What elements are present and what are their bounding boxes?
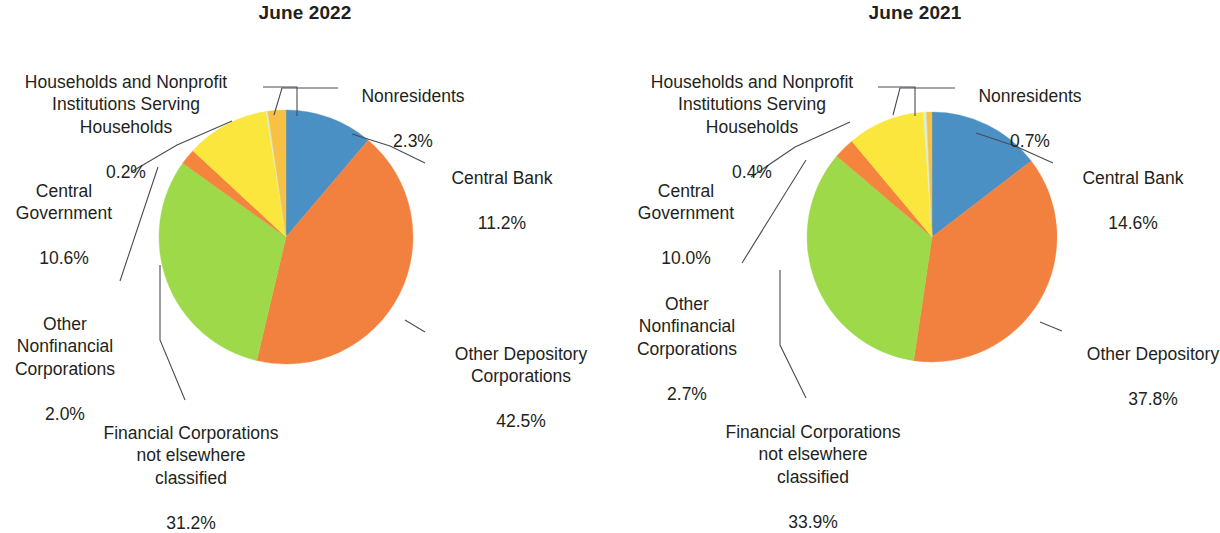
callout-other-depository-right: Other Depository 37.8% (1068, 320, 1220, 410)
callout-central-government-right: Central Government 10.0% (622, 157, 750, 270)
callout-central-bank-left: Central Bank 11.2% (427, 144, 577, 234)
callout-financial-nec-right: Financial Corporations not elsewhere cla… (702, 398, 924, 533)
callout-other-nonfinancial-right: Other Nonfinancial Corporations 2.7% (622, 270, 752, 405)
callout-other-depository-left: Other Depository Corporations 42.5% (432, 320, 610, 433)
callout-central-government-left: Central Government 10.6% (0, 157, 128, 270)
leader-financial-nec-left (160, 265, 185, 400)
leader-other-depository-right (1040, 322, 1062, 331)
chart-panel-june-2022: June 2022 Central Bank 11.2%Other Deposi… (0, 0, 610, 486)
callout-financial-nec-left: Financial Corporations not elsewhere cla… (80, 399, 302, 533)
chart-panel-june-2021: June 2021 Central Bank 14.6%Other Deposi… (610, 0, 1220, 486)
callout-central-bank-right: Central Bank 14.6% (1058, 144, 1208, 234)
leader-other-depository-left (405, 320, 425, 332)
callout-nonresidents-right: Nonresidents 0.7% (954, 62, 1106, 152)
leader-nonresidents-right (893, 88, 955, 115)
leader-nonresidents-left (274, 88, 338, 115)
callout-nonresidents-left: Nonresidents 2.3% (337, 62, 489, 152)
leader-households-left (263, 87, 297, 116)
leader-financial-nec-right (780, 270, 806, 398)
